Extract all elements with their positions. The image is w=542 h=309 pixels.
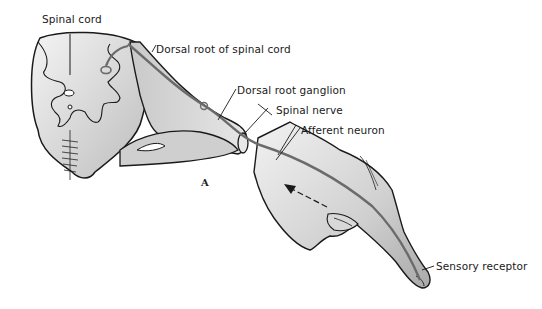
label-spinal-nerve: Spinal nerve [276,104,343,116]
label-dorsal-root-ganglion: Dorsal root ganglion [237,84,346,96]
hand-illustration [254,122,430,288]
label-sensory-receptor: Sensory receptor [436,260,527,272]
label-dorsal-root: Dorsal root of spinal cord [156,43,291,55]
label-spinal-cord: Spinal cord [42,13,102,25]
afferent-pathway-diagram: Spinal cord Dorsal root of spinal cord D… [0,0,542,309]
label-afferent-neuron: Afferent neuron [301,124,385,136]
panel-letter: A [201,177,209,188]
